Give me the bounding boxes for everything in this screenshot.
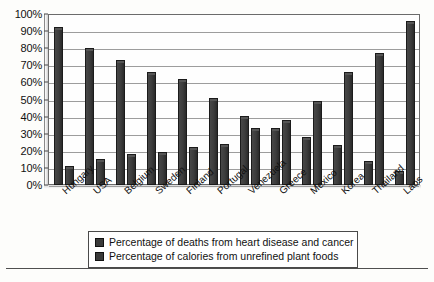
bar-top-cap: [209, 98, 218, 101]
bar-top-cap: [116, 60, 125, 63]
bar-top-cap: [127, 154, 136, 157]
bar-top-cap: [406, 21, 415, 24]
chart-legend: Percentage of deaths from heart disease …: [88, 231, 358, 268]
y-axis-tick-label: 100%: [15, 8, 42, 20]
bar-series-1: [54, 29, 63, 185]
grouped-bar-chart: 100%90%80%70%60%50%40%30%20%10%0% Hungar…: [0, 0, 434, 282]
bar-top-cap: [375, 53, 384, 56]
y-axis-tick-label: 0%: [27, 179, 43, 191]
bar-group: [48, 14, 79, 185]
bar-top-cap: [282, 120, 291, 123]
bar-top-cap: [364, 161, 373, 164]
y-axis-tick-label: 60%: [21, 76, 42, 88]
legend-label-series-1: Percentage of deaths from heart disease …: [109, 235, 354, 249]
legend-item-series-2: Percentage of calories from unrefined pl…: [95, 249, 351, 263]
legend-label-series-2: Percentage of calories from unrefined pl…: [109, 249, 338, 263]
bar-top-cap: [220, 144, 229, 147]
y-axis: 100%90%80%70%60%50%40%30%20%10%0%: [0, 14, 44, 185]
y-axis-tick-label: 10%: [21, 162, 42, 174]
y-axis-tick-label: 90%: [21, 25, 42, 37]
bar-top-cap: [240, 116, 249, 119]
bar-top-cap: [158, 152, 167, 155]
bar-top-cap: [271, 128, 280, 131]
bar-top-cap: [54, 27, 63, 30]
bar-group: [234, 14, 265, 185]
bar-top-cap: [302, 137, 311, 140]
bar-series-container: [48, 14, 420, 185]
bar-series-2: [313, 103, 322, 185]
bar-group: [327, 14, 358, 185]
bar-top-cap: [85, 48, 94, 51]
bar-top-cap: [96, 159, 105, 162]
bar-series-2: [406, 23, 415, 185]
bar-group: [141, 14, 172, 185]
bar-series-2: [375, 55, 384, 185]
y-axis-tick-label: 80%: [21, 42, 42, 54]
legend-swatch-series-1: [95, 238, 104, 247]
bar-top-cap: [313, 101, 322, 104]
y-axis-tick-label: 50%: [21, 94, 42, 106]
y-axis-tick-label: 40%: [21, 111, 42, 123]
bar-group: [203, 14, 234, 185]
bar-top-cap: [189, 147, 198, 150]
x-axis-labels: HungaryUSABelgiumSwedenFinlandPortugalVe…: [48, 188, 420, 234]
bar-top-cap: [65, 166, 74, 169]
bar-group: [79, 14, 110, 185]
legend-swatch-series-2: [95, 252, 104, 261]
bar-top-cap: [344, 72, 353, 75]
bar-series-2: [344, 74, 353, 185]
bar-top-cap: [333, 145, 342, 148]
y-axis-tick-label: 20%: [21, 145, 42, 157]
bar-group: [389, 14, 420, 185]
footer-divider: [6, 268, 428, 269]
y-axis-tick-label: 70%: [21, 59, 42, 71]
bar-group: [110, 14, 141, 185]
bar-series-1: [364, 163, 373, 185]
bar-top-cap: [147, 72, 156, 75]
legend-item-series-1: Percentage of deaths from heart disease …: [95, 235, 351, 249]
bar-series-1: [116, 62, 125, 185]
y-axis-tick-label: 30%: [21, 128, 42, 140]
bar-group: [358, 14, 389, 185]
bar-top-cap: [251, 128, 260, 131]
bar-group: [296, 14, 327, 185]
bar-top-cap: [178, 79, 187, 82]
bar-group: [172, 14, 203, 185]
